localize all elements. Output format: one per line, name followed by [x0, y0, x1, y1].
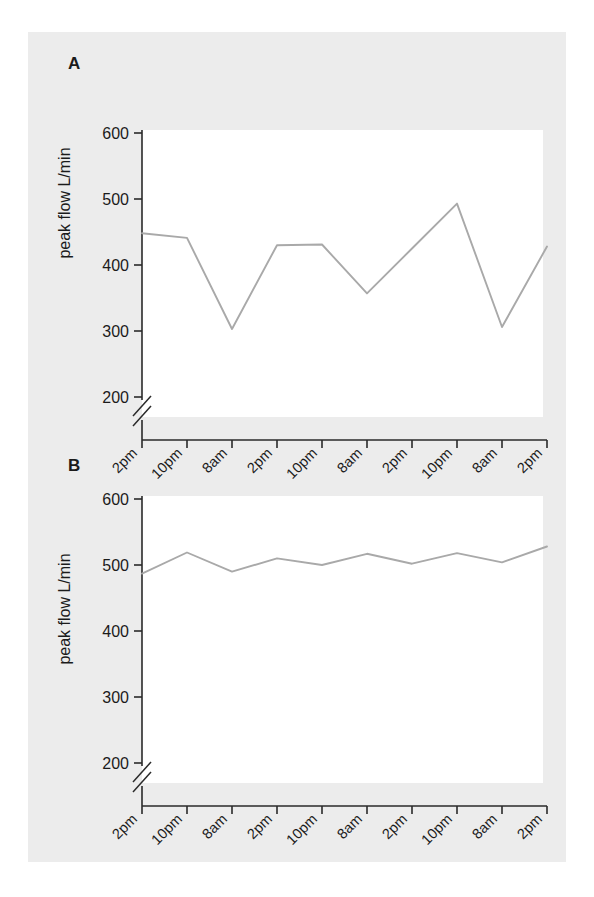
panel-a: A peak flow L/min 600 500: [0, 34, 594, 454]
panel-b-ytick-300: 300: [102, 689, 129, 706]
panel-a-ytick-300: 300: [102, 323, 129, 340]
panel-b-xtick-3: 2pm: [244, 811, 275, 842]
panel-b-xtick-5: 8am: [334, 811, 365, 842]
panel-b-y-ticks: [134, 499, 142, 763]
panel-b-xtick-1: 10pm: [148, 811, 185, 848]
panel-b-plot-area: [142, 496, 543, 783]
panel-b: B peak flow L/min 600 500 400 300 200: [0, 452, 594, 882]
panel-b-xtick-2: 8am: [199, 811, 230, 842]
panel-a-y-ticks: [134, 133, 142, 397]
panel-a-ytick-600: 600: [102, 125, 129, 142]
figure-page: A peak flow L/min 600 500: [0, 0, 594, 897]
panel-b-xtick-7: 10pm: [418, 811, 455, 848]
panel-b-xtick-0: 2pm: [109, 811, 140, 842]
panel-a-plot: 600 500 400 300 200 2pm 10pm 8am: [0, 34, 594, 454]
panel-b-ytick-200: 200: [102, 755, 129, 772]
panel-b-plot: 600 500 400 300 200 2pm 10pm 8am 2pm 10p: [0, 452, 594, 882]
panel-a-ytick-200: 200: [102, 389, 129, 406]
panel-b-ytick-600: 600: [102, 491, 129, 508]
panel-b-ytick-500: 500: [102, 557, 129, 574]
panel-b-ytick-400: 400: [102, 623, 129, 640]
panel-a-ytick-400: 400: [102, 257, 129, 274]
panel-b-xtick-8: 8am: [469, 811, 500, 842]
panel-b-xtick-6: 2pm: [379, 811, 410, 842]
panel-b-xtick-9: 2pm: [514, 811, 545, 842]
panel-b-xtick-4: 10pm: [283, 811, 320, 848]
panel-a-ytick-500: 500: [102, 191, 129, 208]
